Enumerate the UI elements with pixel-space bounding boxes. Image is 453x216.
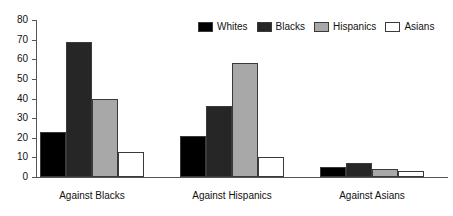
y-axis-tick-label: 80 — [17, 14, 28, 25]
y-axis-tick: 80 — [32, 20, 36, 21]
y-axis-tick-label: 50 — [17, 73, 28, 84]
y-axis-tick-label: 20 — [17, 132, 28, 143]
y-axis-tick: 20 — [32, 138, 36, 139]
bar-asians-2 — [258, 157, 284, 177]
bar-whites-1 — [40, 132, 66, 177]
y-axis-tick-label: 60 — [17, 53, 28, 64]
y-axis-tick-label: 40 — [17, 93, 28, 104]
y-axis — [36, 20, 37, 178]
bar-blacks-2 — [206, 106, 232, 177]
bar-asians-3 — [398, 171, 424, 177]
bar-chart: Whites Blacks Hispanics Asians 010203040… — [0, 0, 453, 216]
y-axis-tick: 40 — [32, 99, 36, 100]
y-axis-tick: 70 — [32, 40, 36, 41]
y-axis-tick-label: 70 — [17, 34, 28, 45]
y-axis-tick: 30 — [32, 118, 36, 119]
category-label-3: Against Asians — [339, 190, 405, 201]
bar-whites-2 — [180, 136, 206, 177]
plot-area: 01020304050607080 — [36, 20, 448, 178]
y-axis-tick-label: 30 — [17, 112, 28, 123]
bar-hispanics-3 — [372, 169, 398, 177]
category-label-2: Against Hispanics — [192, 190, 271, 201]
y-axis-tick: 10 — [32, 157, 36, 158]
bar-blacks-1 — [66, 42, 92, 177]
y-axis-tick-label: 10 — [17, 151, 28, 162]
y-axis-tick: 0 — [32, 177, 36, 178]
y-axis-tick: 50 — [32, 79, 36, 80]
bar-asians-1 — [118, 152, 144, 178]
bar-blacks-3 — [346, 163, 372, 177]
bar-hispanics-2 — [232, 63, 258, 177]
y-axis-tick-label: 0 — [22, 171, 28, 182]
bar-hispanics-1 — [92, 99, 118, 178]
x-axis — [36, 177, 448, 178]
y-axis-tick: 60 — [32, 59, 36, 60]
category-label-1: Against Blacks — [59, 190, 125, 201]
bar-whites-3 — [320, 167, 346, 177]
